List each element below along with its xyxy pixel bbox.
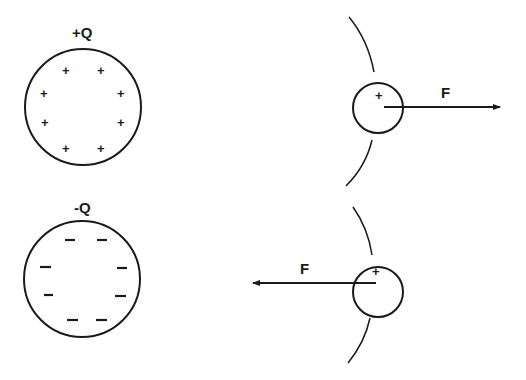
- negative-sphere-label: -Q: [74, 199, 91, 216]
- plus-sign-icon: +: [97, 63, 105, 78]
- plus-sign-icon: +: [375, 88, 383, 103]
- equipotential-arc-bottom: [348, 318, 370, 363]
- charge-force-diagram: +Q + + + + + + + + -Q +: [0, 0, 526, 380]
- plus-sign-icon: +: [97, 141, 105, 156]
- plus-sign-icon: +: [41, 115, 49, 130]
- positive-sphere-outline: [25, 49, 141, 165]
- force-label: F: [300, 260, 309, 277]
- negative-charges: [40, 240, 127, 320]
- negative-sphere: -Q: [24, 199, 140, 337]
- equipotential-arc-top: [349, 17, 374, 72]
- positive-sphere: +Q + + + + + + + +: [25, 24, 141, 165]
- positive-sphere-label: +Q: [72, 24, 93, 41]
- plus-sign-icon: +: [117, 86, 125, 101]
- test-charge-attracted: + F: [253, 207, 403, 363]
- positive-charges: + + + + + + + +: [40, 63, 125, 156]
- force-label: F: [441, 84, 450, 101]
- plus-sign-icon: +: [117, 115, 125, 130]
- plus-sign-icon: +: [62, 63, 70, 78]
- plus-sign-icon: +: [40, 86, 48, 101]
- plus-sign-icon: +: [372, 264, 380, 279]
- test-charge-repelled: + F: [346, 17, 500, 186]
- equipotential-arc-bottom: [346, 140, 372, 186]
- plus-sign-icon: +: [62, 141, 70, 156]
- equipotential-arc-top: [353, 207, 372, 255]
- negative-sphere-outline: [24, 221, 140, 337]
